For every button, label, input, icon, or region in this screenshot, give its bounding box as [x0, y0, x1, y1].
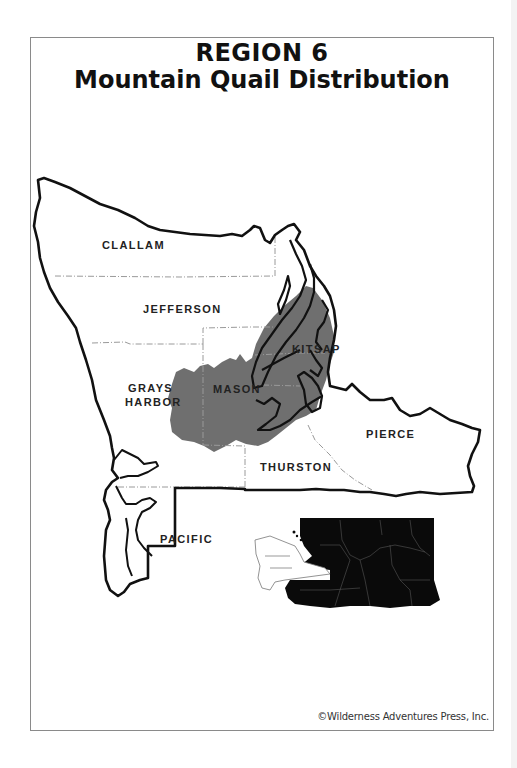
inset-washington-map: [255, 518, 440, 608]
label-kitsap: KITSAP: [292, 343, 341, 355]
label-thurston: THURSTON: [260, 461, 332, 473]
label-clallam: CLALLAM: [102, 239, 165, 251]
label-jefferson: JEFFERSON: [143, 303, 222, 315]
label-pacific: PACIFIC: [160, 533, 213, 545]
border-jefferson-grayharbor: [92, 342, 203, 344]
label-mason: MASON: [213, 383, 261, 395]
copyright-credit: ©Wilderness Adventures Press, Inc.: [317, 711, 489, 722]
border-thurston-pierce: [308, 425, 372, 490]
border-mason-thurston: [203, 445, 245, 490]
border-clallam-jefferson: [55, 232, 275, 277]
label-pierce: PIERCE: [366, 428, 415, 440]
label-grays-harbor-2: HARBOR: [125, 396, 182, 408]
region-map: CLALLAM JEFFERSON KITSAP GRAYS HARBOR MA…: [0, 0, 517, 768]
label-grays-harbor-1: GRAYS: [128, 382, 173, 394]
bays-coastline: [114, 450, 158, 576]
